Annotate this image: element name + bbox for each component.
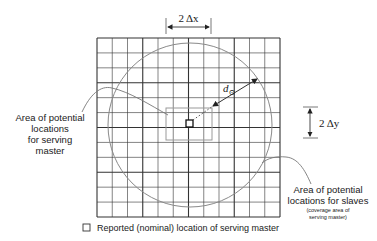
dimension-y: 2 Δy: [303, 107, 340, 138]
nominal-location-square: [186, 120, 193, 127]
right-leader-line: [262, 157, 311, 184]
svg-text:(coverage area of: (coverage area of: [306, 207, 350, 213]
legend-text: Reported (nominal) location of serving m…: [97, 223, 279, 233]
dimension-x: 2 Δx: [166, 12, 211, 34]
svg-text:for serving: for serving: [28, 134, 72, 145]
dimension-x-label: 2 Δx: [178, 12, 199, 24]
dimension-y-label: 2 Δy: [319, 117, 340, 129]
svg-text:Area of potential: Area of potential: [293, 184, 362, 195]
coverage-diagram: d⊙ 2 Δx 2 Δy Area of potential locations…: [0, 0, 377, 241]
svg-text:locations: locations: [31, 123, 69, 134]
label-master-area: Area of potential locations for serving …: [15, 112, 84, 156]
svg-text:serving master): serving master): [309, 214, 347, 220]
svg-text:master: master: [35, 145, 64, 156]
radius-label: d⊙: [223, 82, 235, 97]
svg-text:locations for slaves: locations for slaves: [288, 195, 369, 206]
left-leader-line: [82, 87, 168, 115]
square-marker-icon: [83, 224, 90, 231]
svg-text:Area of potential: Area of potential: [15, 112, 84, 123]
label-slave-area: Area of potential locations for slaves (…: [288, 184, 369, 220]
legend: Reported (nominal) location of serving m…: [83, 223, 279, 233]
